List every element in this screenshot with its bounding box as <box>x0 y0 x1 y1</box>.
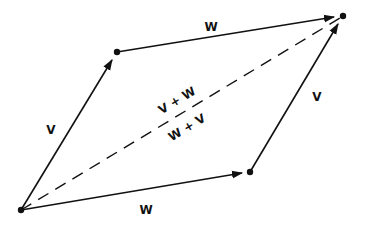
vector-w-top <box>117 17 334 52</box>
parallelogram-diagram: W W V V V + W W + V <box>0 0 365 229</box>
vertex-origin <box>18 207 24 213</box>
vertex-bottom-right <box>247 169 253 175</box>
label-w-plus-v: W + V <box>166 111 209 144</box>
label-top-w: W <box>204 20 217 34</box>
vector-v-right <box>250 24 338 172</box>
label-bottom-w: W <box>139 203 152 217</box>
vertex-top-left <box>114 49 120 55</box>
label-v-plus-w: V + W <box>156 84 198 117</box>
vertex-top-right <box>340 13 346 19</box>
label-left-v: V <box>46 123 56 137</box>
vector-w-bottom <box>21 173 242 210</box>
vector-v-left <box>21 60 112 210</box>
label-right-v: V <box>312 90 322 104</box>
diagonal-dashed-line <box>21 18 340 210</box>
